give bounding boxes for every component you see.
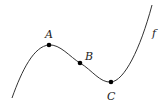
point-c — [109, 80, 114, 85]
label-b: B — [84, 50, 93, 63]
label-a: A — [44, 28, 53, 41]
label-f: f — [151, 27, 158, 40]
label-c: C — [107, 90, 116, 103]
curve-f — [12, 5, 152, 98]
point-b — [78, 61, 83, 66]
point-a — [47, 43, 52, 48]
function-graph: A B C f — [0, 0, 167, 106]
